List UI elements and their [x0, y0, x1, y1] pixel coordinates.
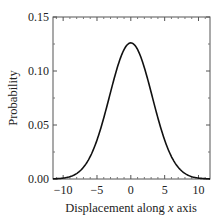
x-tick-label: −5: [91, 183, 104, 197]
x-tick-label: 10: [192, 183, 204, 197]
y-tick-label: 0.05: [28, 118, 49, 132]
x-tick-label: 0: [128, 183, 134, 197]
y-tick-label: 0.15: [28, 10, 49, 24]
y-tick-label: 0.10: [28, 64, 49, 78]
y-axis-ticks: 0.000.050.100.15: [28, 10, 210, 186]
y-axis-label: Probability: [6, 69, 20, 125]
x-tick-label: 5: [162, 183, 168, 197]
gaussian-curve: [53, 43, 210, 179]
plot-frame: [53, 17, 210, 179]
x-axis-label: Displacement along x axis: [65, 201, 197, 215]
y-tick-label: 0.00: [28, 172, 49, 186]
x-tick-label: −10: [54, 183, 73, 197]
probability-chart: −10−50510 0.000.050.100.15 Displacement …: [0, 0, 221, 218]
